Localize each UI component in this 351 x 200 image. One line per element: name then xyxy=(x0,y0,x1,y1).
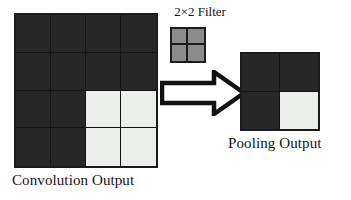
conv-cell-r3c2 xyxy=(51,91,86,129)
pooling-output-grid xyxy=(240,52,320,131)
conv-cell-r1c4 xyxy=(121,15,156,53)
filter-cell-r1c1 xyxy=(172,29,188,45)
filter-grid xyxy=(170,27,206,63)
conv-cell-r4c2 xyxy=(51,128,86,166)
right-block-arrow-icon xyxy=(160,70,246,116)
conv-cell-r4c1 xyxy=(16,128,51,166)
filter-cell-r2c1 xyxy=(172,45,188,61)
convolution-output-caption: Convolution Output xyxy=(12,172,134,189)
conv-cell-r1c2 xyxy=(51,15,86,53)
conv-cell-r2c3 xyxy=(86,53,121,91)
conv-cell-r1c3 xyxy=(86,15,121,53)
filter-label: 2×2 Filter xyxy=(160,4,240,20)
pool-cell-r1c2 xyxy=(280,54,318,92)
filter-cell-r2c2 xyxy=(188,45,204,61)
conv-cell-r3c3 xyxy=(86,91,121,129)
pooling-output-caption: Pooling Output xyxy=(228,135,322,152)
pool-cell-r1c1 xyxy=(242,54,280,92)
conv-cell-r1c1 xyxy=(16,15,51,53)
conv-cell-r3c4 xyxy=(121,91,156,129)
conv-cell-r3c1 xyxy=(16,91,51,129)
conv-cell-r2c2 xyxy=(51,53,86,91)
convolution-output-grid xyxy=(14,13,158,168)
conv-cell-r4c4 xyxy=(121,128,156,166)
pool-cell-r2c1 xyxy=(242,92,280,130)
conv-cell-r2c4 xyxy=(121,53,156,91)
pool-cell-r2c2 xyxy=(280,92,318,130)
conv-cell-r2c1 xyxy=(16,53,51,91)
conv-cell-r4c3 xyxy=(86,128,121,166)
filter-cell-r1c2 xyxy=(188,29,204,45)
diagram-canvas: 2×2 Filter Convolution Output Pooling Ou… xyxy=(0,0,351,200)
